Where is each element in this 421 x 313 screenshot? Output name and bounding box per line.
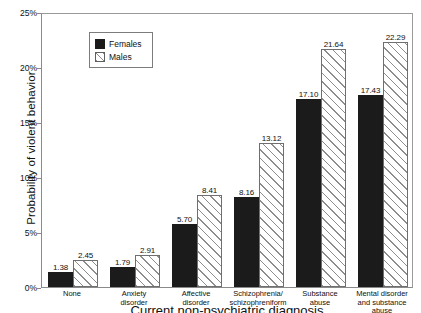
bar-males: 13.12 [259, 143, 284, 287]
legend-swatch-females-icon [95, 39, 105, 49]
legend-item-males: Males [95, 50, 142, 63]
y-axis-tick-label: 15% [0, 118, 37, 128]
y-axis-tick-label: 20% [0, 63, 37, 73]
bar-value-label: 2.45 [78, 251, 93, 260]
bar-value-label: 5.70 [177, 215, 192, 224]
bar-females: 17.10 [296, 99, 321, 287]
bar-value-label: 8.41 [202, 186, 217, 195]
bar-males: 22.29 [383, 42, 408, 287]
bar-females: 1.79 [110, 267, 135, 287]
bar-chart: Probability of violent behavior 0%5%10%1… [0, 0, 421, 313]
bar-males: 2.45 [73, 260, 98, 287]
bar-females: 1.38 [48, 272, 73, 287]
plot-area: 1.382.451.792.915.708.418.1613.1217.1021… [41, 13, 413, 288]
bar-males: 8.41 [197, 195, 222, 288]
y-axis-tick-label: 10% [0, 173, 37, 183]
y-axis-tick-mark [37, 288, 41, 289]
y-axis-tick-label: 25% [0, 8, 37, 18]
x-axis-title: Current non-psychiatric diagnosis [41, 303, 413, 313]
bar-value-label: 1.79 [115, 258, 130, 267]
bar-value-label: 8.16 [239, 188, 254, 197]
bar-value-label: 13.12 [262, 134, 282, 143]
bar-value-label: 1.38 [53, 263, 68, 272]
bar-value-label: 17.43 [361, 86, 381, 95]
y-axis-tick-label: 5% [0, 228, 37, 238]
bar-value-label: 21.64 [324, 40, 344, 49]
bar-females: 5.70 [172, 224, 197, 287]
legend-swatch-males-icon [95, 52, 105, 62]
chart-legend: Females Males [89, 32, 153, 68]
bar-males: 2.91 [135, 255, 160, 287]
bar-females: 17.43 [358, 95, 383, 287]
bar-value-label: 2.91 [140, 246, 155, 255]
bar-value-label: 22.29 [386, 33, 406, 42]
bar-value-label: 17.10 [299, 90, 319, 99]
y-axis-tick-label: 0% [0, 283, 37, 293]
bar-females: 8.16 [234, 197, 259, 287]
legend-label-males: Males [109, 52, 132, 62]
legend-item-females: Females [95, 37, 142, 50]
legend-label-females: Females [109, 39, 142, 49]
bar-males: 21.64 [321, 49, 346, 287]
